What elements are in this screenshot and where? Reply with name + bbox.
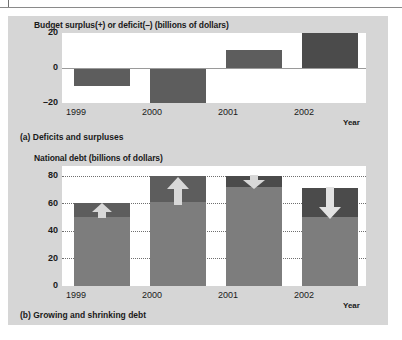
bar-2002-base [302, 217, 358, 286]
chart-b-xtick-1999: 1999 [48, 290, 104, 300]
page-top-tick-mark [8, 0, 9, 7]
chart-a-xaxis-label: Year [343, 118, 360, 127]
chart-a-xtick-2000: 2000 [124, 107, 180, 117]
chart-a-title: Budget surplus(+) or deficit(–) (billion… [34, 20, 229, 30]
chart-a-zero-line [62, 68, 366, 69]
chart-b-xtick-2000: 2000 [124, 290, 180, 300]
chart-b-caption: (b) Growing and shrinking debt [20, 310, 146, 320]
chart-b-plot-area [62, 166, 366, 286]
chart-b-xaxis-label: Year [343, 301, 360, 310]
arrow-up-icon-1999 [92, 203, 112, 218]
bar-2000 [150, 68, 206, 103]
chart-b-xtick-2001: 2001 [200, 290, 256, 300]
bar-2002 [302, 33, 358, 68]
bar-2001-base [226, 187, 282, 286]
chart-b-gridline-80 [62, 176, 366, 177]
chart-a-ytick-neg20: –20 [22, 97, 58, 107]
chart-a-caption: (a) Deficits and surpluses [20, 132, 123, 142]
bar-2000-base [150, 202, 206, 286]
chart-b-xtick-2002: 2002 [276, 290, 332, 300]
figure-panel: Budget surplus(+) or deficit(–) (billion… [8, 16, 388, 325]
arrow-down-icon-2002 [319, 187, 341, 219]
chart-a-xtick-2002: 2002 [276, 107, 332, 117]
bar-1999 [74, 68, 130, 86]
chart-b-ytick-60: 60 [26, 198, 58, 208]
page-top-rule [0, 7, 402, 8]
chart-a-plot-area [62, 33, 366, 103]
arrow-down-icon-2001 [243, 175, 265, 189]
chart-b-ytick-80: 80 [26, 170, 58, 180]
chart-a-ytick-0: 0 [26, 62, 58, 72]
chart-a-xtick-2001: 2001 [200, 107, 256, 117]
chart-a-xtick-1999: 1999 [48, 107, 104, 117]
chart-a-ytick-20: 20 [26, 27, 58, 37]
chart-b-ytick-40: 40 [26, 225, 58, 235]
bar-1999-base [74, 217, 130, 286]
chart-b-ytick-20: 20 [26, 253, 58, 263]
arrow-up-icon-2000 [167, 177, 189, 205]
bar-2001 [226, 50, 282, 68]
chart-b-title: National debt (billions of dollars) [34, 153, 163, 163]
chart-b-ytick-0: 0 [26, 280, 58, 290]
